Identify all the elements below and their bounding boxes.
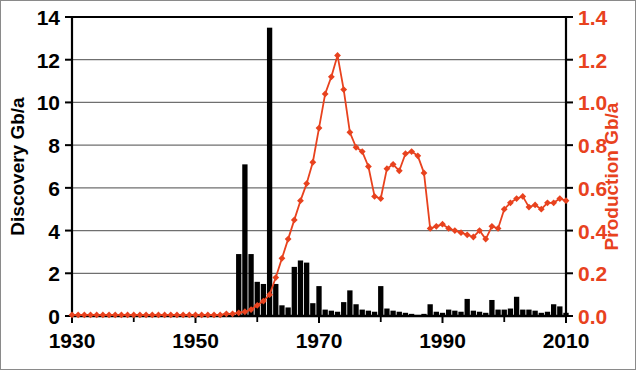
bar-1998 xyxy=(489,300,494,316)
marker-1967 xyxy=(297,197,304,204)
bar-1978 xyxy=(366,311,371,316)
marker-1939 xyxy=(124,312,131,319)
ytick-label-14: 14 xyxy=(37,6,61,29)
bar-1994 xyxy=(465,299,470,316)
bar-1976 xyxy=(353,304,358,316)
ytick-label-6: 6 xyxy=(48,177,60,200)
production-markers xyxy=(69,52,570,318)
bar-1968 xyxy=(304,263,309,316)
bar-1986 xyxy=(415,315,420,316)
marker-1975 xyxy=(346,129,353,136)
marker-1935 xyxy=(99,312,106,319)
marker-1979 xyxy=(371,193,378,200)
marker-1933 xyxy=(87,312,94,319)
figure: 024681012140.00.20.40.60.81.01.21.419301… xyxy=(0,0,636,370)
marker-1934 xyxy=(93,312,100,319)
y2-axis-label: Production Gb/a xyxy=(601,102,622,250)
bar-1991 xyxy=(446,310,451,316)
bar-2009 xyxy=(557,306,562,316)
xtick-label-1970: 1970 xyxy=(296,329,343,352)
bar-1970 xyxy=(316,286,321,316)
marker-1972 xyxy=(328,73,335,80)
ytick-label-2: 2 xyxy=(48,262,60,285)
marker-1974 xyxy=(340,86,347,93)
bar-2003 xyxy=(520,310,525,316)
y2tick-label-1_2: 1.2 xyxy=(578,49,607,72)
marker-1937 xyxy=(112,312,119,319)
bar-1979 xyxy=(372,312,377,316)
ytick-label-4: 4 xyxy=(48,220,60,243)
marker-1963 xyxy=(272,274,279,281)
bar-1981 xyxy=(384,309,389,316)
bar-1971 xyxy=(323,310,328,316)
chart-canvas: 024681012140.00.20.40.60.81.01.21.419301… xyxy=(0,0,636,370)
marker-1970 xyxy=(316,125,323,132)
bar-1975 xyxy=(347,290,352,316)
bar-2007 xyxy=(545,312,550,316)
bar-1960 xyxy=(255,282,260,316)
y-axis-label: Discovery Gb/a xyxy=(7,97,28,236)
xtick-label-1930: 1930 xyxy=(49,329,96,352)
bar-1985 xyxy=(409,314,414,316)
bar-1965 xyxy=(285,307,290,316)
marker-1948 xyxy=(180,312,187,319)
bar-1983 xyxy=(397,312,402,316)
marker-1938 xyxy=(118,312,125,319)
marker-1949 xyxy=(186,312,193,319)
bar-1992 xyxy=(452,311,457,316)
bar-1989 xyxy=(434,312,439,316)
bar-1990 xyxy=(440,313,445,316)
marker-1932 xyxy=(81,312,88,319)
marker-1965 xyxy=(285,236,292,243)
y2tick-label-0_2: 0.2 xyxy=(578,262,607,285)
marker-1941 xyxy=(137,312,144,319)
marker-1952 xyxy=(204,312,211,319)
ytick-label-0: 0 xyxy=(48,305,60,328)
y2tick-label-0: 0.0 xyxy=(578,305,607,328)
bar-1999 xyxy=(495,310,500,316)
bar-1984 xyxy=(403,313,408,316)
bar-1974 xyxy=(341,302,346,316)
marker-1980 xyxy=(377,195,384,202)
bar-2005 xyxy=(532,311,537,316)
bar-1996 xyxy=(477,312,482,316)
marker-1945 xyxy=(161,312,168,319)
marker-1951 xyxy=(198,312,205,319)
xtick-label-1950: 1950 xyxy=(172,329,219,352)
bar-2008 xyxy=(551,304,556,316)
bar-2010 xyxy=(563,313,568,316)
marker-2010 xyxy=(563,197,570,204)
marker-1946 xyxy=(167,312,174,319)
xtick-label-2010: 2010 xyxy=(543,329,590,352)
marker-1971 xyxy=(322,90,329,97)
marker-1954 xyxy=(217,312,224,319)
marker-1968 xyxy=(303,180,310,187)
marker-1987 xyxy=(421,170,428,177)
bar-1972 xyxy=(329,311,334,316)
bar-1977 xyxy=(360,310,365,316)
bar-1982 xyxy=(390,311,395,316)
marker-1964 xyxy=(279,255,286,262)
bar-1962 xyxy=(267,28,272,316)
bar-1969 xyxy=(310,303,315,316)
bar-1987 xyxy=(421,314,426,316)
marker-1947 xyxy=(174,312,181,319)
marker-1998 xyxy=(489,223,496,230)
bar-1967 xyxy=(298,260,303,316)
marker-1942 xyxy=(143,312,150,319)
bar-2002 xyxy=(514,297,519,316)
marker-1973 xyxy=(334,52,341,59)
marker-1989 xyxy=(433,223,440,230)
marker-1984 xyxy=(402,150,409,157)
ytick-label-10: 10 xyxy=(37,91,60,114)
marker-1930 xyxy=(69,312,76,319)
bar-1980 xyxy=(378,286,383,316)
marker-1940 xyxy=(130,312,137,319)
marker-1994 xyxy=(464,231,471,238)
bar-1964 xyxy=(279,305,284,316)
bar-1963 xyxy=(273,284,278,316)
bar-2001 xyxy=(508,309,513,316)
bar-2004 xyxy=(526,310,531,316)
production-line xyxy=(72,55,566,314)
bar-1988 xyxy=(427,304,432,316)
